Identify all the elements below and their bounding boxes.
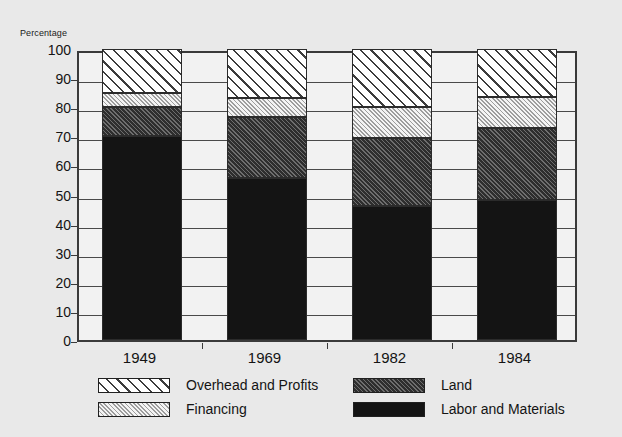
bar-segment — [227, 117, 307, 178]
bar-segment — [102, 107, 182, 136]
bar-segment — [102, 136, 182, 340]
chart-legend: Overhead and ProfitsFinancingLandLabor a… — [98, 378, 598, 424]
y-tick-label: 80 — [25, 100, 71, 116]
y-tick-label: 50 — [25, 188, 71, 204]
y-tick-label: 60 — [25, 158, 71, 174]
legend-swatch-land — [353, 378, 425, 393]
bar-segment — [352, 138, 432, 206]
x-tick-label: 1949 — [80, 349, 200, 366]
chart-figure: Percentage 1009080706050403020100 194919… — [0, 0, 622, 437]
bar-segment — [227, 49, 307, 98]
legend-label-labor: Labor and Materials — [441, 401, 565, 417]
bar-segment — [102, 93, 182, 108]
y-tick-label: 0 — [25, 333, 71, 349]
bar-segment — [352, 49, 432, 107]
y-axis: 1009080706050403020100 — [15, 51, 71, 342]
legend-swatch-overhead — [98, 378, 170, 393]
bar-segment — [227, 178, 307, 340]
bar-segment — [477, 128, 557, 201]
y-axis-title: Percentage — [20, 28, 67, 38]
bar-1969 — [227, 49, 307, 340]
bar-1984 — [477, 49, 557, 340]
y-tick-label: 90 — [25, 71, 71, 87]
bar-1982 — [352, 49, 432, 340]
bar-segment — [227, 98, 307, 117]
y-tick-mark — [71, 342, 77, 343]
y-tick-label: 10 — [25, 304, 71, 320]
legend-label-land: Land — [441, 377, 472, 393]
bar-segment — [477, 97, 557, 128]
x-tick-label: 1969 — [205, 349, 325, 366]
y-tick-label: 70 — [25, 129, 71, 145]
legend-label-overhead: Overhead and Profits — [186, 377, 318, 393]
bar-segment — [352, 206, 432, 340]
legend-swatch-financing — [98, 402, 170, 417]
x-tick-mark — [202, 343, 203, 349]
x-tick-mark — [452, 343, 453, 349]
bar-segment — [352, 107, 432, 138]
y-tick-label: 30 — [25, 246, 71, 262]
bar-segment — [477, 49, 557, 97]
bar-1949 — [102, 49, 182, 340]
legend-swatch-labor — [353, 402, 425, 417]
x-tick-label: 1982 — [330, 349, 450, 366]
legend-label-financing: Financing — [186, 401, 247, 417]
bar-segment — [102, 49, 182, 93]
plot-area — [77, 51, 577, 342]
y-tick-label: 20 — [25, 275, 71, 291]
y-tick-label: 100 — [25, 42, 71, 58]
bar-segment — [477, 200, 557, 340]
y-tick-label: 40 — [25, 217, 71, 233]
x-tick-mark — [327, 343, 328, 349]
x-tick-label: 1984 — [455, 349, 575, 366]
